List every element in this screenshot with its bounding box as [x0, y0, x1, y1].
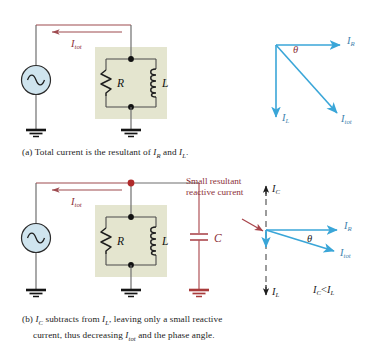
resistor-label-b: R [116, 235, 124, 247]
ground-symbol-source-b [26, 290, 46, 297]
ground-symbol-load-a [121, 130, 141, 137]
caption-panel-a: (a) Total current is the resultant of IR… [22, 146, 282, 162]
phasor-label-il-b: IL [271, 286, 280, 298]
annotation-line-3: reactive [186, 187, 215, 197]
current-label-itot-a: Itot [70, 38, 83, 50]
caption-b-text-1: subtracts from [43, 314, 102, 324]
caption-b-prefix: (b) [22, 314, 33, 324]
ground-symbol-capacitor-b [189, 290, 209, 297]
annotation-line-1: Small [186, 176, 207, 186]
phasor-label-ir-a: IR [346, 35, 356, 47]
phasor-vector-itot-a [276, 45, 337, 113]
caption-panel-b: (b) IC subtracts from IL, leaving only a… [22, 313, 312, 345]
phasor-label-ic-b: IC [271, 183, 281, 195]
phasor-angle-label-a: θ [293, 44, 298, 55]
phasor-label-ir-b: IR [343, 220, 353, 232]
resistor-label-a: R [116, 77, 124, 89]
caption-b-line2-pre: current, thus decreasing [33, 330, 125, 340]
panel-b-phasor: IC IL IR Itot θ IC<IL [242, 183, 353, 298]
phasor-angle-label-b: θ [307, 233, 312, 244]
ground-symbol-source-a [26, 130, 46, 137]
phasor-relation-ic-lt-il-b: IC<IL [312, 284, 334, 296]
ground-symbol-load-b [121, 290, 141, 297]
annotation-line-4: current [217, 187, 243, 197]
annotation-small-resultant-reactive-current: Small resultant reactive current [186, 176, 244, 199]
panel-a-circuit: Itot R L [22, 25, 169, 137]
panel-a-phasor: IR IL Itot θ [276, 35, 356, 125]
caption-b-line2-post: and the phase angle. [136, 330, 215, 340]
node-top-a [128, 56, 134, 62]
phasor-label-itot-a: Itot [340, 113, 353, 125]
annotation-pointer-arrow-b [242, 219, 263, 231]
caption-a-prefix: (a) [22, 147, 33, 157]
inductor-label-b: L [161, 235, 168, 247]
caption-a-text-1: Total current is the resultant of [35, 147, 154, 157]
node-top-b [128, 214, 134, 220]
caption-a-text-2: and [161, 147, 179, 157]
phasor-label-il-a: IL [281, 112, 290, 124]
caption-a-text-3: . [186, 147, 188, 157]
caption-b-text-2: , leaving only a small reactive [109, 314, 222, 324]
caption-b-line-2: current, thus decreasing Itot and the ph… [33, 329, 312, 345]
capacitor-label-b: C [214, 232, 222, 244]
phasor-label-itot-b: Itot [339, 247, 352, 259]
phasor-vector-itot-b [266, 230, 334, 251]
current-label-itot-b: Itot [70, 196, 83, 208]
caption-b-symbol-itot-sub: tot [128, 335, 135, 342]
node-junction-red-b [128, 180, 135, 187]
inductor-label-a: L [161, 77, 168, 89]
annotation-line-2: resultant [210, 176, 242, 186]
